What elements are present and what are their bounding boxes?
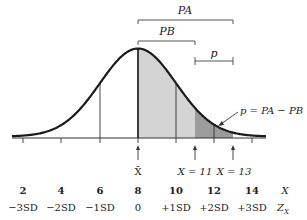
z-tick-label: −2SD	[46, 202, 76, 213]
mean-label: X̄	[134, 166, 142, 177]
z-tick-label: 0	[135, 202, 141, 213]
z-row-label: ZX	[276, 202, 290, 216]
z-tick-label: +2SD	[199, 202, 229, 213]
x-value-row: 2 4 6 8 10 12 14 X	[20, 185, 290, 196]
x-tick-label: 14	[245, 185, 259, 196]
z-tick-label: +3SD	[237, 202, 267, 213]
annotation-arrow-icon	[218, 112, 238, 126]
marker-x13-label: X = 13	[216, 166, 252, 177]
x-tick-label: 4	[58, 185, 65, 196]
axis-ticks	[23, 138, 252, 143]
x11-arrow-icon	[193, 145, 197, 160]
x-tick-label: 2	[20, 185, 27, 196]
marker-x11-label: X = 11	[177, 166, 213, 177]
x-tick-label: 8	[135, 185, 142, 196]
z-tick-label: +1SD	[161, 202, 191, 213]
x-tick-label: 10	[169, 185, 183, 196]
x-tick-label: 6	[97, 185, 104, 196]
x-tick-label: 12	[207, 185, 221, 196]
shaded-area-pb	[138, 49, 195, 139]
bracket-p-label: p	[210, 47, 217, 60]
normal-distribution-diagram: PA PB p p = PA − PB X̄ X = 11 X = 13 2 4…	[0, 0, 307, 220]
x13-arrow-icon	[231, 145, 235, 160]
x-row-label: X	[280, 185, 289, 196]
bracket-pa	[138, 20, 233, 24]
formula-annotation: p = PA − PB	[240, 105, 303, 116]
bracket-pb-label: PB	[158, 25, 175, 38]
mean-arrow-icon	[136, 145, 140, 160]
z-value-row: −3SD −2SD −1SD 0 +1SD +2SD +3SD ZX	[8, 202, 290, 216]
bracket-pa-label: PA	[177, 4, 192, 17]
bracket-pb	[138, 41, 195, 45]
z-tick-label: −1SD	[85, 202, 115, 213]
z-tick-label: −3SD	[8, 202, 38, 213]
